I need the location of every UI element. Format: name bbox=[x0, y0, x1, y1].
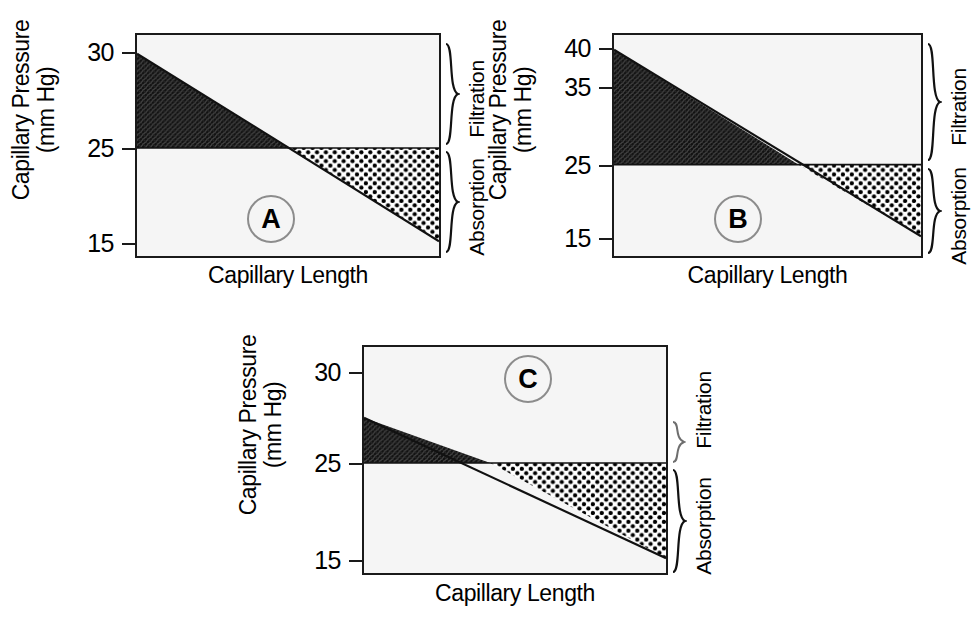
panel-b-absorption-label: Absorption bbox=[947, 151, 971, 281]
panel-c-ytick-label-25: 25 bbox=[297, 449, 341, 478]
panel-b-filtration-label: Filtration bbox=[947, 52, 971, 162]
panel-c-ytick-mark-25 bbox=[349, 463, 362, 465]
panel-b-plot-area: B bbox=[612, 33, 923, 258]
panel-a-y-axis-title-line1: Capillary Pressure bbox=[8, 20, 34, 201]
panel-c-x-axis-title: Capillary Length bbox=[362, 580, 668, 607]
panel-b-ytick-label-25: 25 bbox=[547, 151, 591, 180]
panel-b-ytick-mark-40 bbox=[599, 48, 612, 50]
panel-c-filtration-label: Filtration bbox=[692, 355, 716, 465]
panel-b-shaded-regions bbox=[614, 35, 921, 256]
panel-b-ytick-mark-35 bbox=[599, 87, 612, 89]
panel-b-ytick-label-35: 35 bbox=[547, 73, 591, 102]
panel-c-y-axis-title-line1: Capillary Pressure bbox=[235, 335, 261, 516]
panel-c-plot-area: C bbox=[362, 345, 668, 575]
panel-c-filtration-brace bbox=[671, 420, 686, 464]
panel-b-filtration-brace bbox=[926, 42, 942, 162]
panel-c-ytick-label-30: 30 bbox=[297, 358, 341, 387]
panel-a-absorption-brace bbox=[444, 150, 460, 254]
panel-b-ytick-label-40: 40 bbox=[547, 34, 591, 63]
panel-c-ytick-mark-30 bbox=[349, 372, 362, 374]
panel-b-x-axis-title: Capillary Length bbox=[612, 262, 923, 289]
panel-a-x-axis-title: Capillary Length bbox=[135, 262, 441, 289]
panel-a-y-axis-title-line2: (mm Hg) bbox=[34, 15, 59, 205]
panel-a-filtration-brace bbox=[444, 42, 460, 146]
panel-a-letter-badge: A bbox=[247, 195, 295, 243]
panel-a-ytick-label-15: 15 bbox=[70, 229, 114, 258]
panel-a-ytick-label-30: 30 bbox=[70, 38, 114, 67]
panel-c-absorption-label: Absorption bbox=[692, 461, 716, 591]
panel-b-ytick-label-15: 15 bbox=[547, 224, 591, 253]
panel-a-ytick-mark-30 bbox=[122, 52, 135, 54]
panel-b-y-axis-title: Capillary Pressure (mm Hg) bbox=[486, 15, 536, 205]
panel-b-ytick-mark-25 bbox=[599, 165, 612, 167]
panel-a-ytick-label-25: 25 bbox=[70, 134, 114, 163]
panel-a-ytick-mark-15 bbox=[122, 243, 135, 245]
panel-c-letter-badge: C bbox=[504, 355, 552, 403]
panel-c-ytick-label-15: 15 bbox=[297, 546, 341, 575]
panel-b-y-axis-title-line1: Capillary Pressure bbox=[485, 20, 511, 201]
panel-c-ytick-mark-15 bbox=[349, 560, 362, 562]
panel-b-absorption-brace bbox=[926, 167, 942, 255]
panel-c-y-axis-title-line2: (mm Hg) bbox=[261, 330, 286, 520]
panel-a-plot-area: A bbox=[135, 33, 441, 258]
panel-b-y-axis-title-line2: (mm Hg) bbox=[511, 15, 536, 205]
panel-c-y-axis-title: Capillary Pressure (mm Hg) bbox=[236, 330, 286, 520]
panel-c-absorption-brace bbox=[671, 468, 687, 574]
capillary-pressure-figure: Capillary Pressure (mm Hg) 30 25 15 bbox=[0, 0, 980, 632]
panel-b-letter-badge: B bbox=[714, 195, 762, 243]
panel-a-ytick-mark-25 bbox=[122, 148, 135, 150]
panel-b-ytick-mark-15 bbox=[599, 238, 612, 240]
panel-a-y-axis-title: Capillary Pressure (mm Hg) bbox=[9, 15, 59, 205]
